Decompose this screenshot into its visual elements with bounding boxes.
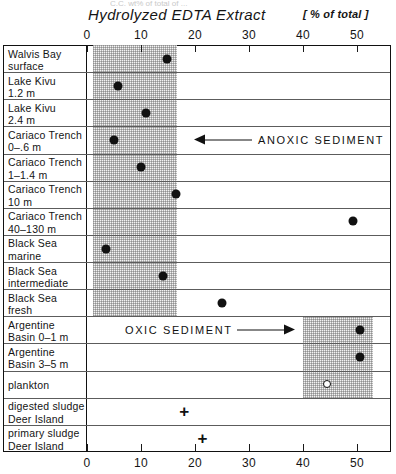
x-tick-label-bottom-20: 20 — [188, 456, 202, 470]
annotation-arrow-right — [237, 324, 295, 335]
row-separator — [4, 181, 390, 182]
row-label-line1: primary sludge — [8, 427, 80, 440]
row-separator — [4, 72, 390, 73]
row-separator — [4, 262, 390, 263]
data-point-filled-circle — [158, 271, 167, 280]
data-point-open-circle — [323, 380, 331, 388]
row-label: Black Seamarine — [8, 237, 57, 262]
x-tick-label-bottom-30: 30 — [242, 456, 256, 470]
data-point-cross: + — [198, 430, 208, 447]
chart-title: Hydrolyzed EDTA Extract — [88, 6, 266, 23]
x-axis-bottom-labels: 01020304050 — [0, 456, 396, 470]
row-label: Walvis Baysurface — [8, 48, 62, 73]
x-tick-label-bottom-50: 50 — [350, 456, 364, 470]
arrow-line — [204, 139, 252, 141]
row-label-line1: Cariaco Trench — [8, 210, 82, 223]
row-label-line2: 10 m — [8, 196, 82, 209]
data-point-filled-circle — [356, 353, 365, 362]
x-tick-top-10 — [141, 45, 142, 52]
row-separator — [4, 99, 390, 100]
x-tick-label-top-30: 30 — [242, 28, 256, 42]
x-tick-bottom-40 — [303, 444, 304, 451]
row-label-line2: Basin 3–5 m — [8, 358, 69, 371]
row-label-line2: 1–1.4 m — [8, 169, 82, 182]
x-tick-label-bottom-0: 0 — [84, 456, 91, 470]
x-tick-label-top-20: 20 — [188, 28, 202, 42]
arrow-line — [237, 329, 285, 331]
row-label-line1: Black Sea — [8, 292, 57, 305]
x-tick-label-top-0: 0 — [84, 28, 91, 42]
row-label: Lake Kivu1.2 m — [8, 75, 56, 100]
row-label: Cariaco Trench10 m — [8, 183, 82, 208]
row-label: Lake Kivu2.4 m — [8, 102, 56, 127]
row-label-line2: Basin 0–1 m — [8, 331, 69, 344]
x-tick-bottom-30 — [249, 444, 250, 451]
row-label-line1: Argentine — [8, 319, 69, 332]
data-point-filled-circle — [171, 190, 180, 199]
row-label: digested sludgeDeer Island — [8, 400, 85, 425]
x-tick-top-40 — [303, 45, 304, 52]
row-label-line2: 1.2 m — [8, 87, 56, 100]
row-label-line1: digested sludge — [8, 400, 85, 413]
row-label-line2: Deer Island — [8, 440, 80, 453]
x-tick-label-top-40: 40 — [296, 28, 310, 42]
row-label-line2: surface — [8, 60, 62, 73]
x-tick-bottom-50 — [357, 444, 358, 451]
row-label-line1: Lake Kivu — [8, 102, 56, 115]
x-tick-label-top-10: 10 — [134, 28, 148, 42]
x-tick-label-bottom-10: 10 — [134, 456, 148, 470]
row-label-line2: intermediate — [8, 277, 68, 290]
data-point-filled-circle — [142, 108, 151, 117]
annotation-anoxic-sediment: ANOXIC SEDIMENT — [258, 134, 384, 146]
row-separator — [4, 154, 390, 155]
chart-header: C.C. wt% of total of ... Hydrolyzed EDTA… — [0, 6, 396, 26]
chart-container: C.C. wt% of total of ... Hydrolyzed EDTA… — [0, 0, 396, 474]
row-separator — [4, 343, 390, 344]
x-tick-top-0 — [87, 45, 88, 52]
x-tick-bottom-20 — [195, 444, 196, 451]
x-axis-top-labels: 01020304050 — [0, 28, 396, 42]
row-separator — [4, 371, 390, 372]
arrow-head-icon — [194, 134, 205, 144]
x-tick-bottom-10 — [141, 444, 142, 451]
row-label-line1: Lake Kivu — [8, 75, 56, 88]
row-label: Black Seaintermediate — [8, 265, 68, 290]
row-separator — [4, 289, 390, 290]
row-label: plankton — [8, 379, 49, 392]
data-point-filled-circle — [162, 54, 171, 63]
row-label-line2: marine — [8, 250, 57, 263]
row-separator — [4, 126, 390, 127]
row-label-line1: Cariaco Trench — [8, 129, 82, 142]
row-label: Cariaco Trench1–1.4 m — [8, 156, 82, 181]
data-point-filled-circle — [110, 135, 119, 144]
annotation-arrow-left — [194, 134, 252, 145]
row-label: Cariaco Trench0–.6 m — [8, 129, 82, 154]
row-label-line1: Black Sea — [8, 237, 57, 250]
row-separator — [4, 235, 390, 236]
x-tick-top-50 — [357, 45, 358, 52]
row-label-line1: plankton — [8, 379, 49, 392]
x-tick-label-top-50: 50 — [350, 28, 364, 42]
x-tick-label-bottom-40: 40 — [296, 456, 310, 470]
row-label-line2: fresh — [8, 304, 57, 317]
row-label-line2: 0–.6 m — [8, 141, 82, 154]
row-label-line1: Black Sea — [8, 265, 68, 278]
row-label-line2: 40–130 m — [8, 223, 82, 236]
annotation-oxic-sediment: OXIC SEDIMENT — [125, 324, 233, 336]
row-separator — [4, 316, 390, 317]
x-tick-bottom-0 — [87, 444, 88, 451]
chart-unit-label: [ % of total ] — [303, 8, 369, 20]
x-tick-top-30 — [249, 45, 250, 52]
row-label: Black Seafresh — [8, 292, 57, 317]
data-point-filled-circle — [348, 217, 357, 226]
row-label: primary sludgeDeer Island — [8, 427, 80, 452]
x-tick-top-20 — [195, 45, 196, 52]
arrow-head-icon — [284, 324, 295, 334]
data-point-filled-circle — [356, 325, 365, 334]
data-point-filled-circle — [137, 163, 146, 172]
row-separator — [4, 425, 390, 426]
row-label-line1: Cariaco Trench — [8, 183, 82, 196]
data-point-cross: + — [179, 403, 189, 420]
row-label-line1: Cariaco Trench — [8, 156, 82, 169]
row-label-line2: 2.4 m — [8, 114, 56, 127]
